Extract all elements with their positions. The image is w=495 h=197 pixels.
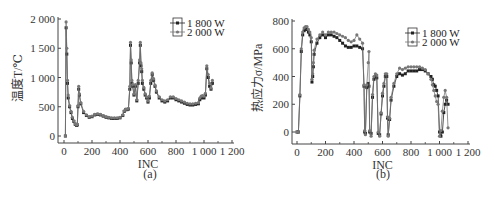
- data-point: [436, 103, 439, 106]
- data-point: [401, 68, 404, 71]
- data-point: [415, 69, 418, 72]
- legend-entry-label: 2 000 W: [187, 26, 225, 38]
- data-point: [392, 82, 395, 85]
- data-point: [347, 39, 350, 42]
- data-point: [437, 94, 440, 97]
- data-point: [427, 72, 430, 75]
- data-point: [355, 33, 358, 36]
- data-point: [204, 92, 207, 95]
- data-point: [350, 40, 353, 43]
- data-point: [441, 110, 444, 113]
- y-tick-label: 1 500: [30, 42, 55, 54]
- data-point: [66, 79, 69, 82]
- legend-marker-square-icon: [411, 32, 414, 35]
- data-point: [138, 58, 141, 61]
- data-point: [332, 30, 335, 33]
- data-point: [363, 129, 366, 132]
- x-tick-label: 0: [61, 145, 67, 157]
- x-tick-label: 0: [294, 146, 300, 158]
- data-point: [104, 115, 107, 118]
- data-point: [90, 115, 93, 118]
- data-point: [118, 116, 121, 119]
- data-point: [409, 65, 412, 68]
- data-point: [202, 95, 205, 98]
- y-tick-label: 200: [273, 98, 290, 110]
- data-point: [404, 72, 407, 75]
- data-point: [364, 133, 367, 136]
- data-point: [432, 89, 435, 92]
- data-point: [71, 116, 74, 119]
- data-point: [152, 77, 155, 80]
- data-point: [300, 47, 303, 50]
- data-point: [388, 117, 391, 120]
- data-point: [207, 73, 210, 76]
- data-point: [338, 39, 341, 42]
- data-point: [315, 37, 318, 40]
- y-tick-label: 0: [50, 130, 56, 142]
- data-point: [398, 67, 401, 70]
- data-point: [395, 72, 398, 75]
- data-point: [135, 98, 138, 101]
- data-point: [358, 37, 361, 40]
- data-point: [128, 85, 131, 88]
- data-point: [130, 79, 133, 82]
- x-tick-label: 200: [317, 146, 334, 158]
- data-point: [78, 92, 81, 95]
- data-point: [365, 83, 368, 86]
- data-point: [341, 35, 344, 38]
- y-tick-label: 0: [284, 126, 290, 138]
- data-point: [158, 95, 161, 98]
- x-tick-label: 800: [168, 145, 185, 157]
- data-point: [191, 102, 194, 105]
- data-point: [435, 100, 438, 103]
- data-point: [137, 79, 140, 82]
- data-point: [379, 111, 382, 114]
- data-point: [330, 33, 333, 36]
- data-point: [76, 123, 79, 126]
- data-point: [177, 98, 180, 101]
- chart-panel-a-temperature: 02004006008001 0001 20005001 0001 5002 0…: [10, 13, 245, 171]
- data-point: [65, 47, 68, 50]
- data-point: [102, 114, 105, 117]
- data-point: [64, 134, 67, 137]
- data-point: [327, 33, 330, 36]
- data-point: [68, 104, 71, 107]
- y-tick-label: 1 000: [30, 72, 55, 84]
- data-point: [375, 74, 378, 77]
- data-point: [148, 95, 151, 98]
- data-point: [180, 99, 183, 102]
- data-point: [139, 61, 142, 64]
- data-point: [82, 110, 85, 113]
- data-point: [76, 104, 79, 107]
- data-point: [88, 115, 91, 118]
- data-point: [144, 92, 147, 95]
- data-point: [85, 113, 88, 116]
- data-point: [321, 33, 324, 36]
- data-point: [209, 86, 212, 89]
- data-point: [145, 95, 148, 98]
- data-point: [415, 65, 418, 68]
- data-point: [341, 42, 344, 45]
- data-point: [308, 30, 311, 33]
- y-tick-label: 500: [39, 101, 56, 113]
- data-point: [310, 78, 313, 81]
- data-point: [382, 82, 385, 85]
- data-point: [344, 44, 347, 47]
- data-point: [297, 130, 300, 133]
- data-point: [431, 83, 434, 86]
- data-point: [127, 107, 130, 110]
- data-point: [142, 86, 145, 89]
- data-point: [79, 101, 82, 104]
- data-point: [99, 113, 102, 116]
- data-point: [444, 103, 447, 106]
- data-point: [444, 89, 447, 92]
- data-point: [146, 99, 149, 102]
- data-point: [211, 79, 214, 82]
- x-tick-label: 200: [84, 145, 101, 157]
- data-point: [141, 79, 144, 82]
- data-point: [208, 82, 211, 85]
- data-point: [131, 83, 134, 86]
- data-point: [307, 28, 310, 31]
- data-point: [407, 69, 410, 72]
- data-point: [412, 69, 415, 72]
